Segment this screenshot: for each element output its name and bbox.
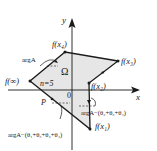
angle-label-right: argA−(θ₂+θ₃+θ₄) (81, 109, 126, 117)
vertex-f-inf (29, 80, 32, 83)
diagram-canvas: y x 0 f(x₄) f(x₃) f(x₂) f(x₁) f(∞) Ω n=5… (0, 0, 157, 151)
label-f-x2: f(x₂) (91, 81, 106, 91)
region-label: Ω (61, 66, 68, 77)
vertex-f-x4 (64, 51, 67, 54)
label-f-x1: f(x₁) (95, 121, 110, 131)
n-label: n=5 (40, 79, 53, 88)
point-p-label: P (40, 98, 46, 107)
origin-label: 0 (67, 91, 71, 100)
label-f-inf: f(∞) (5, 76, 19, 86)
y-axis-label: y (61, 15, 66, 25)
vertex-f-x3 (117, 60, 120, 63)
angle-arc-right (91, 98, 96, 106)
x-axis-label: x (135, 92, 140, 102)
angle-label-top: argA (22, 56, 36, 64)
angle-label-bottom: argA−(θ₁+θ₂+θ₃+θ₄) (8, 131, 62, 139)
angle-arc-bottom (60, 106, 62, 119)
vertex-f-x1 (89, 128, 92, 131)
label-f-x3: f(x₃) (121, 56, 136, 66)
point-p (51, 98, 54, 101)
label-f-x4: f(x₄) (52, 39, 67, 49)
